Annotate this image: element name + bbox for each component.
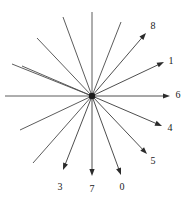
arrow-head xyxy=(157,62,164,67)
arrow-head xyxy=(155,121,162,126)
vector-label-8: 8 xyxy=(151,21,156,31)
vector-label-4: 4 xyxy=(168,123,173,133)
vector-line-4 xyxy=(92,96,157,124)
vector-line-8 xyxy=(92,37,142,96)
unlabeled-ray-5 xyxy=(37,38,92,96)
arrow-head xyxy=(89,169,94,176)
radial-vector-diagram: 01345678 xyxy=(0,0,191,201)
arrow-head xyxy=(63,163,68,170)
vector-line-3 xyxy=(65,96,92,165)
vector-label-1: 1 xyxy=(169,56,174,66)
vector-label-0: 0 xyxy=(120,182,125,192)
unlabeled-ray-0 xyxy=(63,17,92,96)
arrow-head xyxy=(163,93,170,98)
vector-line-1 xyxy=(92,64,159,96)
unlabeled-ray-3 xyxy=(92,22,121,96)
vector-label-6: 6 xyxy=(176,90,181,100)
unlabeled-ray-1 xyxy=(20,96,92,130)
unlabeled-ray-8 xyxy=(33,96,92,163)
vector-label-5: 5 xyxy=(151,156,156,166)
arrow-head xyxy=(116,168,121,175)
origin-hub xyxy=(89,93,95,99)
vector-line-0 xyxy=(92,96,119,170)
vector-line-5 xyxy=(92,96,143,150)
vector-label-7: 7 xyxy=(90,184,95,194)
vector-canvas xyxy=(0,0,191,201)
vector-label-3: 3 xyxy=(58,182,63,192)
unlabeled-ray-1b xyxy=(12,64,92,96)
